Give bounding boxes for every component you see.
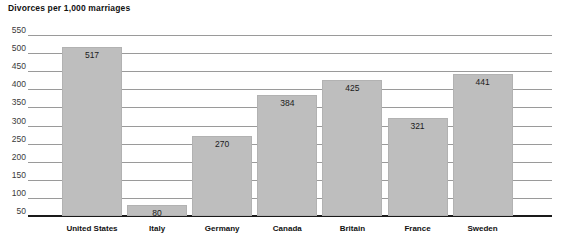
- y-tick-label: 250: [4, 135, 26, 144]
- gridline: [28, 35, 552, 36]
- y-tick-label: 550: [4, 26, 26, 35]
- y-tick-label: 300: [4, 117, 26, 126]
- bar-value-label: 270: [192, 140, 252, 149]
- plot-area: 55050045040035030025020015010050 5178027…: [0, 0, 565, 237]
- y-tick-label: 450: [4, 62, 26, 71]
- y-tick-label: 500: [4, 44, 26, 53]
- y-tick-label: 400: [4, 80, 26, 89]
- y-tick-label: 100: [4, 189, 26, 198]
- bar-value-label: 384: [257, 99, 317, 108]
- bar-value-label: 441: [453, 78, 513, 87]
- y-tick-label: 150: [4, 171, 26, 180]
- bar-chart: Divorces per 1,000 marriages 55050045040…: [0, 0, 565, 237]
- category-label: Sweden: [441, 224, 525, 233]
- bar-value-label: 517: [62, 51, 122, 60]
- bar-value-label: 321: [388, 122, 448, 131]
- bar: [453, 74, 513, 216]
- y-tick-label: 350: [4, 98, 26, 107]
- bar: [62, 47, 122, 216]
- bar: [322, 80, 382, 216]
- bar: [388, 118, 448, 216]
- y-tick-label: 50: [4, 207, 26, 216]
- bar-value-label: 425: [322, 84, 382, 93]
- y-tick-label: 200: [4, 153, 26, 162]
- bar: [257, 95, 317, 216]
- bar-value-label: 80: [127, 209, 187, 218]
